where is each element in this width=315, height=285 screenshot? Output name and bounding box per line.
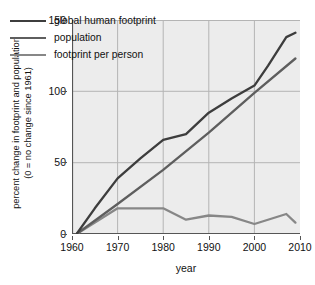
x-tick-mark [118,236,119,240]
x-tick-label: 1970 [98,241,138,253]
legend-item: population [10,29,210,46]
y-tick-mark [62,162,67,163]
x-tick-mark [300,236,301,240]
legend-swatch-icon [10,20,46,22]
legend-item: footprint per person [10,46,210,63]
x-tick-label: 1990 [189,241,229,253]
x-tick-label: 1960 [52,241,92,253]
x-axis-tick-labels: 1960 1970 1980 1990 2000 2010 [0,236,315,256]
x-tick-label: 2010 [280,241,315,253]
legend-label: footprint per person [54,49,143,60]
x-tick-mark [209,236,210,240]
x-tick-label: 2000 [234,241,274,253]
x-tick-mark [72,236,73,240]
legend-item: global human footprint [10,12,210,29]
series-line-footprint-per-person [77,208,296,234]
chart-figure: percent change in footprint and populati… [0,0,315,285]
legend-label: global human footprint [54,15,156,26]
legend-swatch-icon [10,54,46,56]
chart-legend: global human footprint population footpr… [10,12,210,63]
x-tick-label: 1980 [143,241,183,253]
y-tick-mark [62,234,67,235]
x-axis-title: year [72,262,300,274]
x-tick-mark [254,236,255,240]
series-line-population [77,59,296,235]
legend-swatch-icon [10,37,46,39]
y-tick-mark [62,91,67,92]
x-tick-mark [163,236,164,240]
legend-label: population [54,32,102,43]
